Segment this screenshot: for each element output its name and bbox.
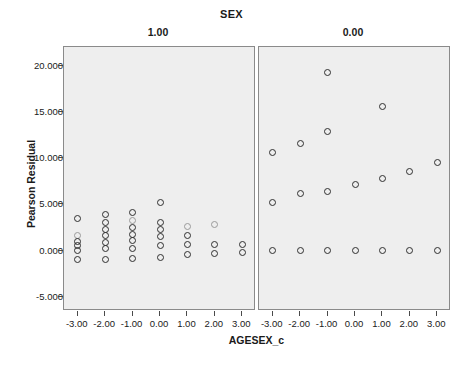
- data-point: [184, 251, 191, 258]
- y-tick-label: 0.000: [15, 244, 63, 255]
- x-axis-title: AGESEX_c: [63, 334, 450, 346]
- x-tick-mark: [214, 311, 215, 316]
- x-tick-mark: [409, 311, 410, 316]
- data-point: [406, 168, 413, 175]
- x-tick-mark: [186, 311, 187, 316]
- data-point: [434, 159, 441, 166]
- data-point: [352, 181, 359, 188]
- plot-panel-sex-1: [63, 46, 255, 310]
- data-point: [211, 221, 218, 228]
- data-point: [269, 199, 276, 206]
- x-tick-mark: [436, 311, 437, 316]
- x-tick-mark: [159, 311, 160, 316]
- scatter-plot-figure: SEX 1.00 0.00 20.00015.00010.0005.0000.0…: [0, 0, 463, 370]
- data-point: [129, 255, 136, 262]
- data-point: [102, 219, 109, 226]
- data-point: [239, 241, 246, 248]
- x-tick-label: 3.00: [224, 318, 258, 329]
- data-point: [434, 247, 441, 254]
- data-point: [157, 226, 164, 233]
- data-point: [157, 242, 164, 249]
- data-point: [239, 249, 246, 256]
- data-point: [211, 250, 218, 257]
- y-tick-label: 15.000: [15, 105, 63, 116]
- x-tick-label: 3.00: [419, 318, 453, 329]
- data-point: [129, 237, 136, 244]
- plot-panel-sex-0: [258, 46, 450, 310]
- data-point: [297, 190, 304, 197]
- x-tick-mark: [77, 311, 78, 316]
- data-point: [184, 232, 191, 239]
- data-point: [269, 149, 276, 156]
- data-point: [406, 247, 413, 254]
- panel-header-sex-0: 0.00: [258, 26, 448, 38]
- figure-title: SEX: [0, 8, 463, 20]
- data-point: [157, 219, 164, 226]
- data-point: [297, 247, 304, 254]
- data-point: [102, 211, 109, 218]
- data-point: [74, 247, 81, 254]
- data-point: [157, 233, 164, 240]
- data-point: [352, 247, 359, 254]
- data-point: [379, 175, 386, 182]
- data-point: [74, 256, 81, 263]
- data-point: [157, 254, 164, 261]
- x-tick-mark: [299, 311, 300, 316]
- data-point: [157, 199, 164, 206]
- y-tick-mark: [58, 65, 63, 66]
- y-tick-label: 10.000: [15, 152, 63, 163]
- y-tick-mark: [58, 250, 63, 251]
- data-point: [324, 128, 331, 135]
- data-point: [324, 69, 331, 76]
- x-tick-mark: [104, 311, 105, 316]
- y-tick-mark: [58, 157, 63, 158]
- data-point: [297, 140, 304, 147]
- y-tick-mark: [58, 296, 63, 297]
- data-point: [379, 247, 386, 254]
- panel-header-sex-1: 1.00: [63, 26, 253, 38]
- data-point: [184, 241, 191, 248]
- data-point: [184, 223, 191, 230]
- data-point: [102, 245, 109, 252]
- data-point: [324, 247, 331, 254]
- x-tick-mark: [132, 311, 133, 316]
- data-point: [129, 217, 136, 224]
- x-tick-mark: [272, 311, 273, 316]
- data-point: [324, 188, 331, 195]
- data-point: [379, 103, 386, 110]
- y-tick-mark: [58, 203, 63, 204]
- data-point: [269, 247, 276, 254]
- x-tick-mark: [381, 311, 382, 316]
- x-tick-mark: [327, 311, 328, 316]
- y-axis-title: Pearson Residual: [25, 104, 37, 264]
- data-point: [74, 215, 81, 222]
- data-point: [211, 241, 218, 248]
- data-point: [129, 245, 136, 252]
- data-point: [102, 256, 109, 263]
- x-tick-mark: [354, 311, 355, 316]
- y-tick-label: 20.000: [15, 59, 63, 70]
- data-point: [129, 209, 136, 216]
- y-tick-mark: [58, 111, 63, 112]
- x-tick-mark: [241, 311, 242, 316]
- y-tick-label: -5.000: [15, 291, 63, 302]
- y-tick-label: 5.000: [15, 198, 63, 209]
